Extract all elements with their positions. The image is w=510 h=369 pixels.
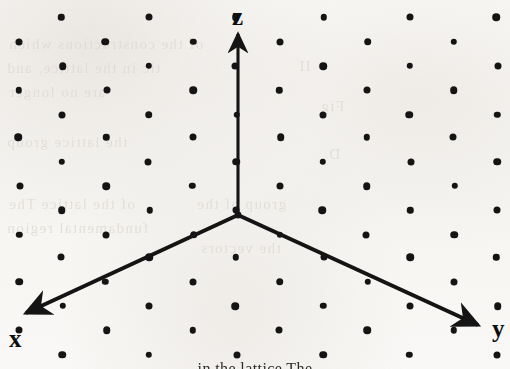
x-axis-label: x [9, 326, 22, 351]
coordinate-axes-figure: of the constructions whichtic in the lat… [0, 0, 510, 369]
y-axis-label: y [492, 316, 505, 341]
axis-label-layer: z x y [0, 0, 510, 369]
z-axis-label: z [232, 4, 243, 29]
bottom-caption-text: in the lattice The [0, 360, 510, 369]
